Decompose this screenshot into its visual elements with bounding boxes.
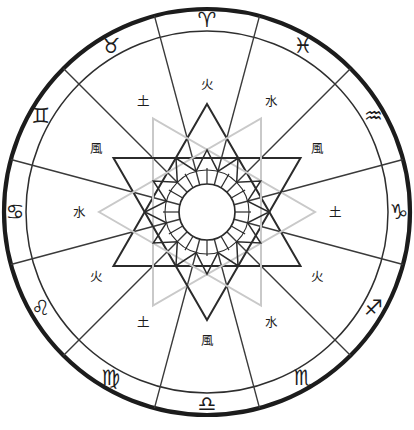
zodiac-sign-cancer: ♋ — [6, 200, 25, 224]
zodiac-sign-libra: ♎ — [198, 392, 217, 416]
zodiac-sign-gemini: ♊ — [31, 104, 50, 128]
zodiac-sign-capricorn: ♑ — [390, 200, 409, 224]
zodiac-sign-taurus: ♉ — [102, 34, 121, 58]
element-label-earth-11: 土 — [137, 94, 150, 109]
element-label-wind-2: 風 — [311, 141, 324, 156]
element-label-wind-10: 風 — [90, 141, 103, 156]
zodiac-wheel-chart: ♈♓♒♑♐♏♎♍♌♋♊♉ 火水風土火水風土火水風土 — [0, 0, 414, 430]
element-label-water-9: 水 — [73, 205, 86, 220]
element-label-earth-3: 土 — [329, 205, 342, 220]
zodiac-sign-scorpio: ♏ — [294, 366, 313, 390]
center-hub-layer — [179, 184, 235, 240]
zodiac-wheel-canvas: ♈♓♒♑♐♏♎♍♌♋♊♉ 火水風土火水風土火水風土 — [0, 0, 414, 430]
center-hub-circle — [179, 184, 235, 240]
zodiac-sign-virgo: ♍ — [102, 366, 121, 390]
zodiac-sign-aries: ♈ — [198, 8, 217, 32]
zodiac-sign-sagittarius: ♐ — [364, 296, 383, 320]
element-label-earth-7: 土 — [137, 315, 150, 330]
zodiac-sign-pisces: ♓ — [294, 34, 313, 58]
zodiac-sign-aquarius: ♒ — [364, 104, 383, 128]
element-label-water-1: 水 — [265, 94, 278, 109]
element-label-fire-0: 火 — [201, 77, 214, 92]
element-label-fire-4: 火 — [311, 269, 324, 284]
element-label-water-5: 水 — [265, 315, 278, 330]
element-label-fire-8: 火 — [90, 269, 103, 284]
element-label-wind-6: 風 — [201, 333, 214, 348]
zodiac-sign-leo: ♌ — [31, 296, 50, 320]
